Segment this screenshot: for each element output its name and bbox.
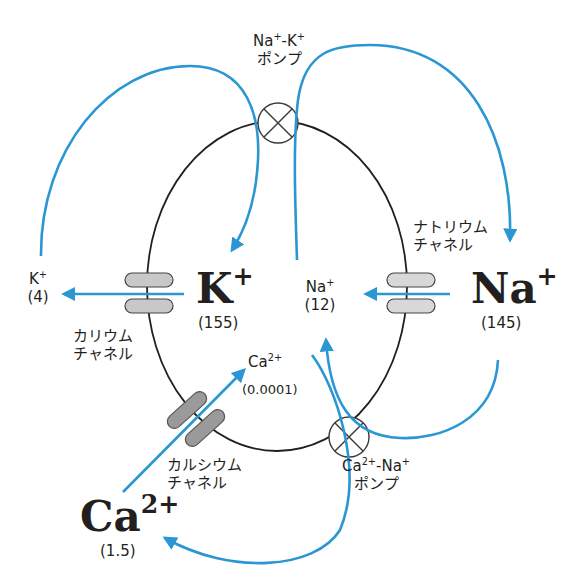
k-outside-label: K+ (4) bbox=[18, 270, 58, 306]
na-k-pump-label: Na+-K+ ポンプ bbox=[238, 32, 320, 68]
ca-na-pump-label: Ca2+-Na+ ポンプ bbox=[326, 457, 426, 493]
ca-outside-label: Ca2+ (1.5) bbox=[80, 496, 179, 560]
na-inside-label: Na+ (12) bbox=[296, 278, 344, 314]
k-inside-label: K+ (155) bbox=[196, 268, 254, 332]
na-k-pump-icon bbox=[258, 103, 298, 143]
potassium-channel-label: カリウム チャネル bbox=[73, 327, 133, 363]
k-pump-arrow bbox=[41, 66, 258, 256]
calcium-channel-label: カルシウム チャネル bbox=[167, 456, 242, 492]
na-outside-label: Na+ (145) bbox=[471, 268, 558, 332]
sodium-channel-label: ナトリウム チャネル bbox=[413, 218, 488, 254]
ca-inside-label: Ca2+ bbox=[248, 353, 282, 371]
ca-inside-conc: (0.0001) bbox=[242, 382, 298, 398]
ca-na-pump-icon bbox=[329, 417, 369, 457]
